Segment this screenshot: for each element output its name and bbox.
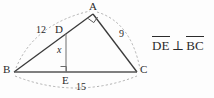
vertex-label-C: C — [140, 64, 147, 75]
perpendicular-symbol: ⊥ — [170, 38, 186, 54]
measure-label-DE: x — [57, 45, 61, 55]
arc-measure-BA — [16, 11, 90, 68]
measure-label-AC: 9 — [119, 29, 124, 39]
vertex-label-E: E — [62, 75, 69, 86]
geometry-figure: A B C D E 12 9 15 x DE⊥BC — [0, 0, 214, 98]
perpendicularity-statement: DE⊥BC — [152, 36, 204, 54]
vertex-label-D: D — [55, 24, 63, 35]
vertex-label-A: A — [89, 1, 97, 12]
arc-measure-AC — [97, 12, 140, 69]
right-angle-mark-at-E — [61, 67, 67, 73]
measure-label-BA: 12 — [36, 25, 46, 35]
segment-AC — [93, 14, 137, 72]
statement-segment-DE: DE — [152, 36, 170, 54]
segment-BA — [14, 14, 93, 72]
measure-label-BC: 15 — [76, 82, 86, 92]
statement-segment-BC: BC — [186, 36, 204, 54]
vertex-label-B: B — [3, 64, 10, 75]
